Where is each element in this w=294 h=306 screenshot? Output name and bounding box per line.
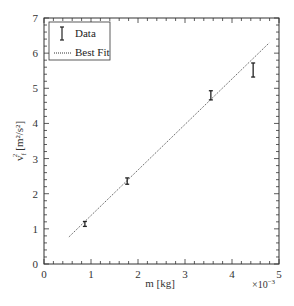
data-points: [83, 63, 255, 226]
best-fit-line: [69, 43, 269, 237]
legend: Data Best Fit: [49, 22, 110, 60]
y-tick-label: 1: [33, 223, 39, 235]
errorbar-point: [251, 63, 255, 77]
legend-fit-label: Best Fit: [75, 46, 110, 58]
x-tick-label: 0: [41, 268, 47, 280]
scatter-chart: 01234501234567 Data Best Fit m [kg] ×10−…: [0, 0, 294, 306]
errorbar-point: [125, 178, 129, 184]
x-tick-label: 2: [135, 268, 141, 280]
x-axis-label: m [kg]: [145, 277, 175, 289]
x-tick-label: 1: [88, 268, 94, 280]
x-tick-label: 4: [229, 268, 235, 280]
y-tick-label: 3: [33, 153, 39, 165]
y-tick-label: 7: [33, 12, 39, 24]
y-tick-label: 0: [33, 258, 39, 270]
x-tick-label: 5: [276, 268, 282, 280]
x-axis-multiplier: ×10−3: [252, 278, 276, 290]
x-tick-label: 3: [182, 268, 188, 280]
errorbar-point: [83, 221, 87, 226]
legend-data-label: Data: [75, 27, 96, 39]
y-axis-label: vf2[m²/s²]: [11, 121, 28, 161]
y-tick-label: 4: [33, 117, 39, 129]
y-tick-label: 5: [33, 82, 39, 94]
y-tick-label: 6: [33, 47, 39, 59]
y-tick-label: 2: [33, 188, 39, 200]
